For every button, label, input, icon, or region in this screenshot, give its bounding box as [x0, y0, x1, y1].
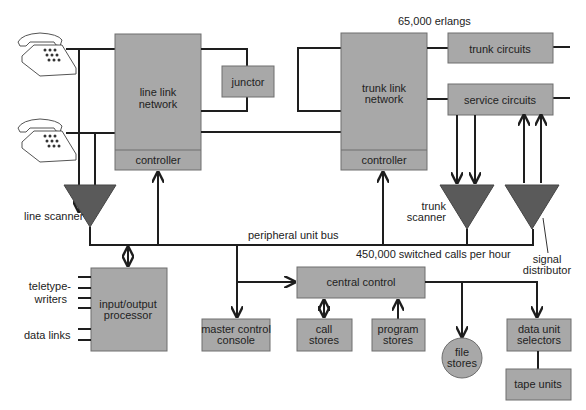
telephone-icon: [18, 33, 76, 76]
line-link-controller-label: controller: [135, 154, 181, 166]
svg-text:tape units: tape units: [514, 378, 562, 390]
svg-text:writers: writers: [34, 293, 68, 305]
svg-text:network: network: [365, 93, 404, 105]
svg-text:stores: stores: [447, 357, 477, 369]
svg-text:stores: stores: [309, 334, 339, 346]
call-stores: call stores: [297, 319, 352, 351]
svg-text:selectors: selectors: [517, 334, 562, 346]
master-control-console: master control console: [201, 319, 271, 351]
file-stores: file stores: [442, 338, 482, 378]
svg-text:scanner: scanner: [407, 211, 446, 223]
telephone-icon: [18, 119, 76, 162]
trunk-link-network: trunk link network controller: [341, 33, 427, 170]
data-links-label: data links: [24, 329, 71, 341]
svg-text:distributor: distributor: [523, 264, 572, 276]
tape-units: tape units: [506, 369, 571, 400]
service-circuits: service circuits: [448, 84, 553, 115]
svg-text:network: network: [139, 98, 178, 110]
data-unit-selectors: data unit selectors: [507, 319, 571, 351]
signal-distributor: [505, 185, 559, 229]
line-link-network: line link network controller: [115, 34, 201, 170]
bus-label: peripheral unit bus: [248, 229, 339, 241]
svg-text:trunk circuits: trunk circuits: [469, 43, 531, 55]
svg-text:controller: controller: [361, 154, 407, 166]
erlangs-annotation: 65,000 erlangs: [398, 15, 471, 27]
svg-text:central control: central control: [326, 276, 395, 288]
calls-per-hour-annotation: 450,000 switched calls per hour: [356, 248, 511, 260]
svg-text:service circuits: service circuits: [464, 94, 537, 106]
program-stores: program stores: [372, 319, 425, 351]
trunk-circuits: trunk circuits: [448, 33, 553, 63]
line-link-network-label: line link: [140, 86, 177, 98]
junctor: junctor: [222, 66, 274, 97]
trunk-scanner: [440, 185, 494, 229]
teletypewriters-label: teletype-: [29, 280, 72, 292]
central-control: central control: [297, 267, 425, 298]
svg-text:stores: stores: [383, 334, 413, 346]
line-scanner-label: line scanner: [24, 210, 84, 222]
svg-text:junctor: junctor: [230, 76, 264, 88]
svg-text:console: console: [217, 334, 255, 346]
input-output-processor: input/output processor: [91, 268, 167, 351]
svg-text:processor: processor: [104, 309, 153, 321]
diagram-canvas: line link network controller junctor tru…: [0, 0, 586, 410]
